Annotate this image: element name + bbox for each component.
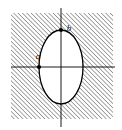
semi-axis-a-label: a (36, 51, 41, 61)
ellipse-figure-container: a b (0, 0, 122, 130)
ellipse-diagram-svg: a b (0, 0, 122, 130)
top-vertex-marker (59, 28, 63, 32)
left-vertex-marker (37, 65, 41, 69)
semi-axis-b-label: b (67, 23, 72, 33)
